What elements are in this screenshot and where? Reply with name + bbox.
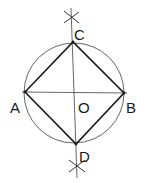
- diameter-ab: [22, 92, 127, 93]
- geometry-figure: C A O B D: [0, 0, 146, 183]
- point-b-dot: [123, 92, 126, 95]
- point-a-dot: [24, 91, 27, 94]
- label-o: O: [78, 99, 90, 116]
- label-b: B: [126, 99, 136, 116]
- label-a: A: [10, 99, 20, 116]
- label-c: C: [74, 26, 85, 43]
- point-d-dot: [75, 143, 78, 146]
- label-d: D: [79, 148, 90, 165]
- diagram-canvas: C A O B D: [0, 0, 146, 183]
